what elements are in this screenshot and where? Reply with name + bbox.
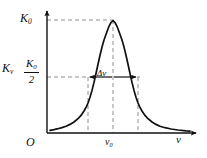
y-axis-label: Kν — [2, 62, 13, 76]
half-max-numerator: K0 — [24, 58, 39, 71]
center-frequency-subscript: 0 — [109, 141, 112, 148]
peak-value-symbol: K — [20, 11, 28, 25]
y-axis-symbol: K — [2, 61, 10, 75]
linewidth-label: Δν — [97, 69, 106, 78]
lorentzian-lineshape-figure: K0 Kν K0 2 O ν0 ν Δν — [0, 0, 207, 158]
half-max-numerator-subscript: 0 — [33, 63, 36, 70]
peak-value-label: K0 — [20, 12, 32, 26]
y-axis-subscript: ν — [10, 67, 13, 76]
center-frequency-label: ν0 — [105, 137, 113, 148]
lineshape-curve — [50, 21, 190, 132]
peak-value-subscript: 0 — [28, 17, 32, 26]
half-max-label: K0 2 — [24, 58, 39, 85]
origin-label: O — [26, 136, 35, 148]
x-axis-label: ν — [176, 134, 181, 145]
half-max-denominator: 2 — [24, 74, 39, 85]
